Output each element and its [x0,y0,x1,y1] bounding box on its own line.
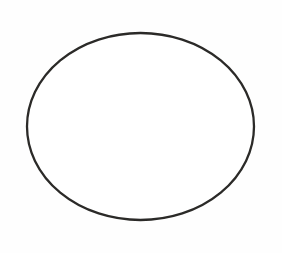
ellipse-figure-svg [0,0,282,253]
ellipse-interior [28,34,253,219]
figure-canvas [0,0,282,253]
